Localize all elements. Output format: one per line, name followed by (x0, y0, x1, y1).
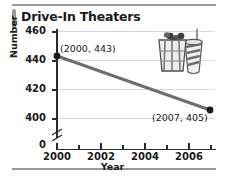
popcorn-and-drink-clipart (152, 27, 208, 77)
y-axis-break-icon (52, 129, 62, 141)
annotation-point-2000: (2000, 443) (60, 43, 116, 54)
annotation-point-2007: (2007, 405) (152, 112, 208, 123)
soda-cup-icon (185, 29, 202, 74)
chart-figure: Drive-In Theaters 460 440 420 400 0 2000… (0, 0, 225, 176)
popcorn-box-icon (159, 32, 186, 71)
